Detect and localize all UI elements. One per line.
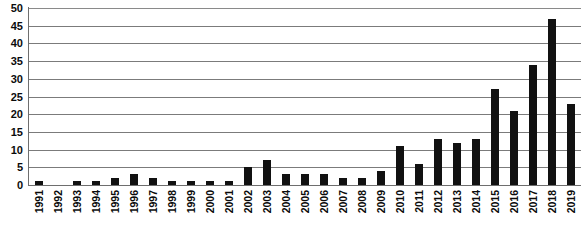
x-axis-tick-slot: 1997: [143, 188, 162, 241]
x-axis-tick-label: 2017: [528, 190, 539, 213]
x-axis-tick-slot: 2016: [505, 188, 524, 241]
bar-slot: [219, 8, 238, 185]
bar-slot: [295, 8, 314, 185]
x-axis-tick-label: 2010: [395, 190, 406, 213]
y-axis-tick-label: 0: [17, 180, 23, 191]
bar[interactable]: [92, 181, 100, 185]
bar-slot: [257, 8, 276, 185]
bar[interactable]: [225, 181, 233, 185]
y-axis-tick-label: 35: [11, 56, 23, 67]
bar-slot: [314, 8, 333, 185]
x-axis-tick-label: 2018: [547, 190, 558, 213]
bar[interactable]: [282, 174, 290, 185]
bar[interactable]: [491, 89, 499, 185]
bar-slot: [143, 8, 162, 185]
x-axis-tick-label: 1998: [166, 190, 177, 213]
bar[interactable]: [472, 139, 480, 185]
x-axis-tick-slot: 1991: [29, 188, 48, 241]
bar-slot: [524, 8, 543, 185]
x-axis-tick-label: 2000: [205, 190, 216, 213]
x-axis-tick-slot: 1992: [48, 188, 67, 241]
x-axis-tick-slot: 2014: [467, 188, 486, 241]
bar-slot: [238, 8, 257, 185]
bar[interactable]: [206, 181, 214, 185]
x-axis-tick-label: 1992: [52, 190, 63, 213]
x-axis-tick-slot: 2013: [448, 188, 467, 241]
bar-slot: [448, 8, 467, 185]
x-axis-line: [28, 185, 581, 186]
bar[interactable]: [358, 178, 366, 185]
x-axis-tick-label: 1994: [90, 190, 101, 213]
y-axis-tick-label: 5: [17, 162, 23, 173]
y-axis-tick-label: 25: [11, 91, 23, 102]
bar-slot: [467, 8, 486, 185]
bar[interactable]: [168, 181, 176, 185]
bar-slot: [429, 8, 448, 185]
bar[interactable]: [301, 174, 309, 185]
x-axis-tick-label: 2007: [338, 190, 349, 213]
bar[interactable]: [529, 65, 537, 185]
x-axis-tick-label: 2015: [490, 190, 501, 213]
x-axis-tick-slot: 2012: [429, 188, 448, 241]
x-axis-tick-slot: 2005: [295, 188, 314, 241]
bar[interactable]: [548, 19, 556, 185]
x-axis-tick-slot: 2008: [353, 188, 372, 241]
bar[interactable]: [453, 143, 461, 185]
bar[interactable]: [377, 171, 385, 185]
bar-slot: [543, 8, 562, 185]
x-axis-tick-slot: 2010: [391, 188, 410, 241]
bar[interactable]: [510, 111, 518, 185]
bar[interactable]: [415, 164, 423, 185]
bar[interactable]: [130, 174, 138, 185]
x-axis-tick-slot: 1995: [105, 188, 124, 241]
bar-slot: [562, 8, 581, 185]
x-axis-tick-slot: 2007: [334, 188, 353, 241]
bar-slot: [410, 8, 429, 185]
bar[interactable]: [396, 146, 404, 185]
bar-slot: [372, 8, 391, 185]
bar[interactable]: [149, 178, 157, 185]
bar-chart: 05101520253035404550 1991199219931994199…: [0, 0, 588, 241]
x-axis-tick-slot: 2017: [524, 188, 543, 241]
x-axis-tick-label: 2006: [319, 190, 330, 213]
bar-slot: [276, 8, 295, 185]
x-axis-tick-slot: 2000: [200, 188, 219, 241]
bar-slot: [334, 8, 353, 185]
y-axis-tick-label: 10: [11, 144, 23, 155]
x-axis-tick-label: 2008: [357, 190, 368, 213]
bar[interactable]: [263, 160, 271, 185]
x-axis-tick-slot: 2001: [219, 188, 238, 241]
bar[interactable]: [111, 178, 119, 185]
x-axis-tick-label: 1993: [71, 190, 82, 213]
x-axis-tick-label: 2016: [509, 190, 520, 213]
x-axis-tick-slot: 2003: [257, 188, 276, 241]
x-axis-tick-label: 2019: [566, 190, 577, 213]
bar-slot: [48, 8, 67, 185]
x-axis-tick-slot: 2006: [314, 188, 333, 241]
bar[interactable]: [73, 181, 81, 185]
x-axis-tick-label: 2013: [452, 190, 463, 213]
bar[interactable]: [35, 181, 43, 185]
x-axis-tick-slot: 2011: [410, 188, 429, 241]
bar[interactable]: [434, 139, 442, 185]
x-axis-tick-slot: 2004: [276, 188, 295, 241]
x-axis-tick-slot: 1998: [162, 188, 181, 241]
bar-slot: [29, 8, 48, 185]
x-axis-tick-label: 2012: [433, 190, 444, 213]
bar-slot: [200, 8, 219, 185]
x-axis-tick-label: 2014: [471, 190, 482, 213]
bar-slot: [505, 8, 524, 185]
bar[interactable]: [187, 181, 195, 185]
y-axis: 05101520253035404550: [0, 0, 26, 192]
x-axis-tick-label: 2009: [376, 190, 387, 213]
y-axis-tick-label: 30: [11, 73, 23, 84]
bar-slot: [486, 8, 505, 185]
bar-slot: [181, 8, 200, 185]
bar[interactable]: [339, 178, 347, 185]
x-axis-tick-label: 1991: [33, 190, 44, 213]
bar-slot: [105, 8, 124, 185]
bar[interactable]: [244, 167, 252, 185]
bar-slot: [67, 8, 86, 185]
bar[interactable]: [567, 104, 575, 185]
bar[interactable]: [320, 174, 328, 185]
